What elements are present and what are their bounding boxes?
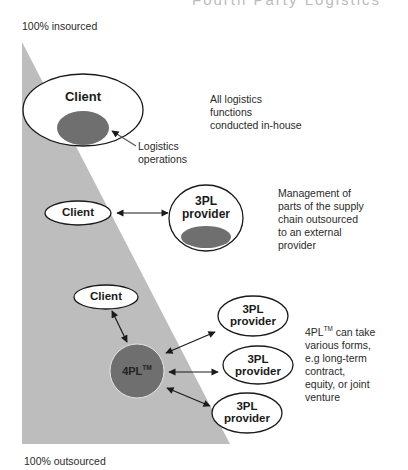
logistics-operations-label: Logistics operations [138,140,187,166]
bottom-axis-label: 100% outsourced [24,455,106,468]
4pl-hub-label: 4PLTM [112,364,162,377]
stage3-description: 4PLTM can take various forms, e.g long-t… [305,322,375,404]
stage2-provider-label: 3PL provider [176,195,236,221]
stage1-client-label: Client [53,89,113,104]
stage2-description: Management of parts of the supply chain … [278,187,364,252]
top-axis-label: 100% insourced [22,20,97,33]
logistics-operations-blob [57,111,109,145]
stage2-client-label: Client [48,206,108,218]
stage3-client-label: Client [76,290,136,302]
stage3-provider2-label: 3PL provider [228,353,288,377]
stage1-description: All logistics functions conducted in-hou… [210,93,302,132]
stage3-provider1-label: 3PL provider [223,303,283,327]
stage3-provider3-label: 3PL provider [217,400,277,424]
stage2-provider-blob [181,226,231,248]
